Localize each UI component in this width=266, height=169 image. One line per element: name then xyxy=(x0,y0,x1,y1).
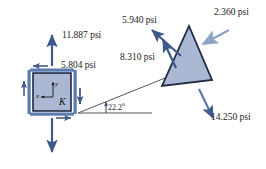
label-wedge-upper-left: 5.940 psi xyxy=(122,16,157,26)
left-shear-bar xyxy=(28,70,31,114)
label-inclination-angle: 22.2o xyxy=(108,101,125,112)
wedge-arrow-lower-left xyxy=(163,40,176,68)
label-normal-stress-vertical: 11.887 psi xyxy=(62,31,101,41)
right-shear-bar xyxy=(74,70,77,114)
wedge-arrow-upper-right xyxy=(203,30,229,44)
angle-value: 22.2 xyxy=(108,103,122,112)
label-axis-x: x xyxy=(36,92,39,100)
label-wedge-lower-left: 8.310 psi xyxy=(120,53,155,63)
wedge-element-group xyxy=(152,26,229,118)
label-wedge-lower-right: 14.250 psi xyxy=(211,113,251,123)
label-wedge-upper-right: 2.360 psi xyxy=(214,8,249,18)
stress-element-figure: 11.887 psi 5.804 psi y x K 22.2o 5.940 p… xyxy=(0,0,266,169)
label-axis-y: y xyxy=(55,80,58,88)
angle-degree-symbol: o xyxy=(122,101,125,107)
label-shear-stress: 5.804 psi xyxy=(61,61,96,71)
label-element-k: K xyxy=(59,96,66,107)
stress-element-square-group xyxy=(24,35,80,152)
wedge-arrow-upper-left xyxy=(152,30,181,56)
bottom-shear-bar xyxy=(30,113,74,116)
